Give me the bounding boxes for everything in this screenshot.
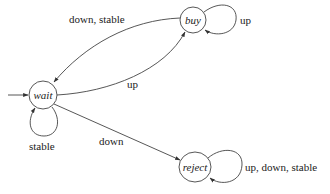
edge-label-buy-self: up xyxy=(240,14,252,26)
edge-buy-wait xyxy=(54,18,180,82)
edge-label-reject-self: up, down, stable xyxy=(245,161,317,173)
state-wait-label: wait xyxy=(34,89,54,101)
state-buy-label: buy xyxy=(185,14,201,26)
edge-label-wait-reject: down xyxy=(99,135,124,147)
edge-reject-self xyxy=(208,150,242,182)
diagram-svg: buy wait reject down, stable up up stabl… xyxy=(0,0,330,194)
state-diagram: buy wait reject down, stable up up stabl… xyxy=(0,0,330,194)
edge-wait-buy xyxy=(57,32,185,95)
edge-label-buy-wait: down, stable xyxy=(69,13,125,25)
edge-wait-reject xyxy=(54,104,180,160)
edge-wait-self xyxy=(30,107,57,136)
edge-label-wait-buy: up xyxy=(127,78,139,90)
edge-label-wait-self: stable xyxy=(29,140,55,152)
state-reject-label: reject xyxy=(183,161,209,173)
edge-buy-self xyxy=(204,5,236,34)
